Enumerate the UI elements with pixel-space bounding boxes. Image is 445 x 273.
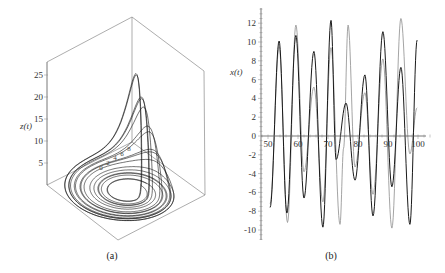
panel-a-caption: (a)	[106, 250, 117, 262]
attractor-trajectory	[65, 74, 174, 221]
x-tick-label: 70	[324, 139, 334, 149]
box-edge-top-right	[132, 17, 204, 71]
y-tick-label: 8	[252, 56, 257, 66]
y-axis-title: x(t)	[229, 67, 243, 77]
y-tick-label: 6	[252, 75, 257, 85]
floor-tick-label: 6	[120, 150, 124, 158]
panel-b-caption: (b)	[325, 250, 337, 262]
panel-a-3d-plot: 5 10 15 20 25 z(t) 0 2 4 6 8 (a)	[19, 17, 205, 262]
series-light-line	[270, 19, 417, 229]
time-series-lines	[270, 19, 417, 229]
figure: 5 10 15 20 25 z(t) 0 2 4 6 8 (a) 1210864…	[0, 0, 445, 273]
x-tick-label: 100	[411, 139, 425, 149]
z-tick-label: 20	[34, 92, 44, 102]
attractor-path	[65, 74, 174, 221]
z-tick-label: 25	[34, 70, 44, 80]
y-tick-label: 2	[252, 112, 257, 122]
z-tick-label: 10	[34, 136, 44, 146]
y-tick-label: -8	[249, 206, 257, 216]
y-tick-labels: 121086420-2-4-6-8-10	[244, 18, 257, 235]
x-tick-label: 90	[384, 139, 394, 149]
y-tick-label: 0	[252, 131, 257, 141]
z-tick-label: 5	[39, 158, 44, 168]
z-axis: 5 10 15 20 25 z(t)	[19, 62, 48, 185]
z-tick-label: 15	[34, 114, 44, 124]
box-edge-right-vertical	[204, 71, 205, 195]
x-tick-label: 50	[264, 139, 274, 149]
box-edge-back-left	[47, 142, 132, 185]
box-edge-top-left	[47, 17, 132, 62]
floor-tick-label: 8	[127, 145, 131, 153]
y-tick-label: 10	[247, 37, 257, 47]
floor-tick-label: 2	[106, 159, 110, 167]
x-tick-label: 60	[294, 139, 304, 149]
panel-b-time-series: 121086420-2-4-6-8-10 5060708090100 x(t) …	[229, 8, 430, 262]
y-tick-label: -4	[249, 169, 257, 179]
z-axis-title: z(t)	[19, 121, 32, 131]
box-edge-front-right	[118, 195, 205, 240]
y-tick-label: 12	[247, 18, 256, 28]
y-tick-label: 4	[252, 93, 257, 103]
floor-tick-label: 0	[99, 164, 103, 172]
figure-canvas: 5 10 15 20 25 z(t) 0 2 4 6 8 (a) 1210864…	[0, 0, 445, 273]
y-tick-label: -10	[244, 225, 256, 235]
y-tick-label: -2	[249, 150, 257, 160]
x-tick-label: 80	[354, 139, 364, 149]
y-tick-label: -6	[249, 187, 257, 197]
floor-tick-label: 4	[113, 154, 117, 162]
